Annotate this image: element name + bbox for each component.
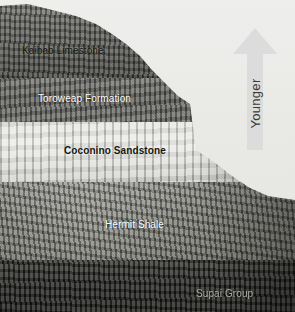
label-hermit-shale: Hermit Shale: [105, 219, 164, 230]
label-supai-group: Supai Group: [196, 288, 253, 299]
younger-arrow-label: Younger: [248, 78, 263, 128]
stratigraphy-figure: Kaibab Limestone Toroweap Formation Coco…: [0, 0, 295, 312]
label-kaibab-limestone: Kaibab Limestone: [22, 45, 104, 56]
label-coconino-sandstone: Coconino Sandstone: [64, 145, 166, 156]
younger-arrow-label-wrap: Younger: [233, 60, 277, 146]
label-toroweap-formation: Toroweap Formation: [38, 93, 131, 104]
